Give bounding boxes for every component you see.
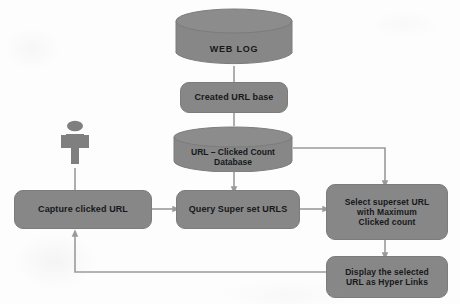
edge-db-to-selectmax <box>293 148 385 184</box>
diagram-canvas: WEB LOG Created URL base URL – Clicked C… <box>0 0 460 304</box>
node-web-log: WEB LOG <box>175 8 293 66</box>
node-select-superset-url-max: Select superset URL with Maximum Clicked… <box>326 184 448 240</box>
node-capture-clicked-url: Capture clicked URL <box>14 190 152 229</box>
edge-display-to-capture-feedback <box>75 233 326 272</box>
node-url-clicked-count-database: URL – Clicked Count Database <box>173 126 293 172</box>
node-created-url-base: Created URL base <box>180 82 288 113</box>
cylinder-shape-web-log <box>175 8 293 66</box>
user-actor-icon <box>55 120 95 168</box>
node-display-hyper-links: Display the selected URL as Hyper Links <box>326 256 448 298</box>
cylinder-shape-url-clicked-count-database <box>173 126 293 172</box>
node-user-actor <box>55 120 95 168</box>
node-query-super-set-urls: Query Super set URLS <box>176 190 300 229</box>
